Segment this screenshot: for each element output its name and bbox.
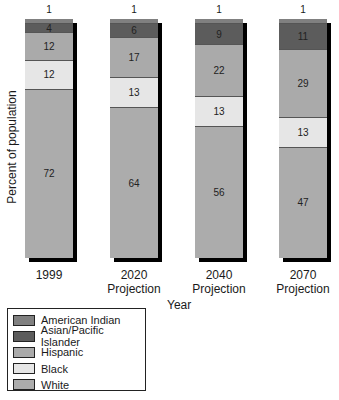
bar-segment-asian-pacific-islander: 6 bbox=[110, 24, 158, 38]
legend-label: White bbox=[41, 379, 69, 391]
legend: American IndianAsian/Pacific IslanderHis… bbox=[7, 308, 146, 391]
segment-value-label: 12 bbox=[43, 41, 54, 52]
bar-stack: 6171364 bbox=[110, 19, 158, 258]
bar-segment-white: 72 bbox=[25, 90, 73, 258]
bar-segment-asian-pacific-islander: 9 bbox=[195, 24, 243, 45]
x-axis-title: Year bbox=[167, 298, 191, 312]
bar-segment-hispanic: 17 bbox=[110, 38, 158, 78]
y-axis-label: Percent of population bbox=[5, 87, 19, 207]
bar-segment-black: 12 bbox=[25, 61, 73, 89]
bar-segment-asian-pacific-islander: 11 bbox=[279, 24, 327, 50]
x-tick-label: 1999 bbox=[9, 268, 89, 282]
segment-value-label: 13 bbox=[297, 127, 308, 138]
stacked-bar: 92213561 bbox=[195, 19, 243, 258]
legend-label: Asian/Pacific Islander bbox=[41, 324, 145, 348]
segment-value-label: 47 bbox=[297, 197, 308, 208]
bar-segment-asian-pacific-islander: 4 bbox=[25, 24, 73, 33]
bar-segment-black: 13 bbox=[110, 78, 158, 108]
segment-value-label: 9 bbox=[216, 29, 222, 40]
legend-item: White bbox=[8, 377, 145, 393]
legend-swatch bbox=[13, 315, 35, 326]
top-value-label: 1 bbox=[195, 4, 243, 15]
legend-label: Black bbox=[41, 363, 68, 375]
x-tick-label: 2070Projection bbox=[263, 268, 339, 296]
legend-swatch bbox=[13, 379, 35, 390]
segment-value-label: 6 bbox=[131, 25, 137, 36]
segment-value-label: 64 bbox=[128, 178, 139, 189]
legend-swatch bbox=[13, 331, 35, 342]
segment-value-label: 56 bbox=[213, 187, 224, 198]
x-tick-label: 2020Projection bbox=[94, 268, 174, 296]
legend-swatch bbox=[13, 363, 35, 374]
bar-stack: 4121272 bbox=[25, 19, 73, 258]
stacked-bar: 41212721 bbox=[25, 19, 73, 258]
bar-segment-white: 56 bbox=[195, 127, 243, 258]
legend-item: Asian/Pacific Islander bbox=[8, 328, 145, 344]
segment-value-label: 12 bbox=[43, 69, 54, 80]
bar-segment-hispanic: 29 bbox=[279, 50, 327, 118]
segment-value-label: 11 bbox=[298, 31, 308, 42]
legend-swatch bbox=[13, 347, 35, 358]
x-tick-label: 2040Projection bbox=[179, 268, 259, 296]
bar-segment-black: 13 bbox=[195, 97, 243, 127]
legend-label: Hispanic bbox=[41, 346, 83, 358]
top-value-label: 1 bbox=[25, 4, 73, 15]
segment-value-label: 17 bbox=[128, 52, 139, 63]
segment-value-label: 4 bbox=[46, 23, 52, 34]
bar-segment-white: 47 bbox=[279, 148, 327, 258]
segment-value-label: 13 bbox=[213, 106, 224, 117]
segment-value-label: 29 bbox=[297, 78, 308, 89]
bar-stack: 11291347 bbox=[279, 19, 327, 258]
segment-value-label: 22 bbox=[213, 65, 224, 76]
top-value-label: 1 bbox=[110, 4, 158, 15]
stacked-bar: 61713641 bbox=[110, 19, 158, 258]
bar-segment-hispanic: 12 bbox=[25, 33, 73, 61]
segment-value-label: 13 bbox=[128, 87, 139, 98]
bar-segment-white: 64 bbox=[110, 108, 158, 258]
bar-segment-black: 13 bbox=[279, 118, 327, 148]
top-value-label: 1 bbox=[279, 4, 327, 15]
legend-item: Black bbox=[8, 361, 145, 377]
segment-value-label: 72 bbox=[43, 168, 54, 179]
bar-segment-hispanic: 22 bbox=[195, 45, 243, 96]
bar-stack: 9221356 bbox=[195, 19, 243, 258]
stacked-bar: 112913471 bbox=[279, 19, 327, 258]
